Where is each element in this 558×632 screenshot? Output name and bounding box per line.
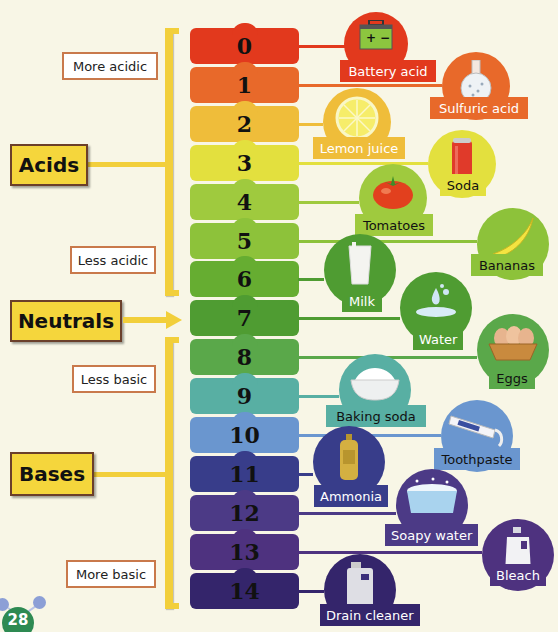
example-label: Milk	[342, 290, 382, 312]
example-label: Soda	[440, 174, 486, 196]
ph-value: 1	[237, 72, 252, 98]
ph-value: 7	[237, 305, 252, 331]
ph-value: 10	[229, 422, 260, 448]
ph-connector-line	[298, 201, 359, 204]
neutral-arrow-shaft	[123, 317, 169, 323]
ph-value: 5	[237, 228, 252, 254]
ph-value: 9	[237, 383, 252, 409]
ph-bar-12: 12	[190, 495, 299, 531]
ph-connector-line	[298, 123, 323, 126]
ph-value: 3	[237, 150, 252, 176]
acids-connector	[88, 162, 168, 167]
ph-connector-line	[298, 590, 324, 593]
less-acidic-label: Less acidic	[70, 246, 156, 274]
ph-connector-line	[298, 278, 324, 281]
ph-connector-line	[298, 395, 339, 398]
ph-bar-11: 11	[190, 456, 299, 492]
example-label: Toothpaste	[434, 448, 520, 470]
ph-value: 6	[237, 266, 252, 292]
example-label: Tomatoes	[355, 214, 433, 236]
ph-connector-line	[298, 512, 396, 515]
ph-bar-6: 6	[190, 261, 299, 297]
page-number: 28	[2, 607, 34, 632]
example-label: Battery acid	[340, 60, 436, 82]
ph-connector-line	[298, 473, 313, 476]
example-label: Sulfuric acid	[430, 97, 528, 119]
example-label: Lemon juice	[313, 137, 405, 159]
ph-value: 4	[237, 189, 252, 215]
ph-bar-9: 9	[190, 378, 299, 414]
ph-connector-line	[298, 240, 477, 243]
ph-bar-1: 1	[190, 67, 299, 103]
example-label: Water	[413, 328, 463, 350]
ph-value: 8	[237, 344, 252, 370]
less-basic-label: Less basic	[72, 365, 156, 393]
ph-value: 11	[229, 461, 260, 487]
ph-bar-7: 7	[190, 300, 299, 336]
svg-text:−: −	[380, 31, 390, 45]
ph-bar-2: 2	[190, 106, 299, 142]
ph-value: 13	[229, 539, 260, 565]
neutrals-label: Neutrals	[10, 300, 122, 342]
neutral-arrow-head	[166, 311, 182, 329]
example-label: Drain cleaner	[320, 604, 420, 626]
example-label: Bananas	[471, 254, 543, 276]
example-label: Baking soda	[326, 405, 426, 427]
ph-value: 2	[237, 111, 252, 137]
more-acidic-label: More acidic	[62, 52, 158, 80]
ph-value: 14	[229, 578, 260, 604]
bases-label: Bases	[10, 452, 94, 496]
ph-bar-4: 4	[190, 184, 299, 220]
acids-bracket-bottom-cap	[165, 290, 179, 296]
more-basic-label: More basic	[66, 560, 156, 588]
bases-bracket-bottom-cap	[165, 603, 179, 609]
example-label: Soapy water	[385, 524, 478, 546]
bases-connector	[92, 472, 168, 477]
ph-connector-line	[298, 84, 442, 87]
ph-connector-line	[298, 317, 400, 320]
ph-connector-line	[298, 162, 428, 165]
ph-bar-8: 8	[190, 339, 299, 375]
ph-bar-10: 10	[190, 417, 299, 453]
ph-connector-line	[298, 45, 345, 48]
svg-text:+: +	[366, 31, 376, 45]
bases-bracket-top-cap	[165, 337, 179, 343]
ph-bar-5: 5	[190, 223, 299, 259]
ph-bar-0: 0	[190, 28, 299, 64]
acids-label: Acids	[10, 144, 88, 186]
ph-bar-13: 13	[190, 534, 299, 570]
ph-value: 12	[229, 500, 260, 526]
acids-bracket-top-cap	[165, 28, 179, 34]
molecule-dot	[33, 596, 46, 609]
example-label: Ammonia	[314, 485, 388, 507]
ph-value: 0	[237, 33, 252, 59]
example-label: Bleach	[490, 564, 546, 586]
ph-bar-14: 14	[190, 573, 299, 609]
ph-connector-line	[298, 551, 482, 554]
example-label: Eggs	[489, 367, 535, 389]
ph-bar-3: 3	[190, 145, 299, 181]
